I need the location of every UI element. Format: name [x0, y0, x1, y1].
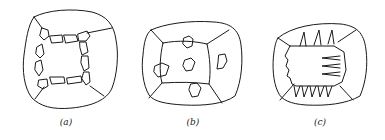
panel-c-label: (c): [256, 117, 384, 127]
panel-b-label: (b): [129, 117, 257, 127]
panel-c: (c): [256, 0, 384, 140]
panel-b: (b): [129, 0, 257, 140]
panel-a: (a): [2, 0, 130, 140]
panel-a-label: (a): [2, 117, 130, 127]
